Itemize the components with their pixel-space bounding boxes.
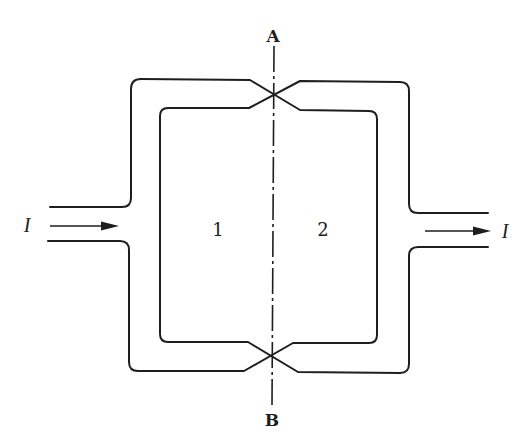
region-label-1: 1 [212,221,223,239]
output-current-arrow-icon [425,227,491,236]
diagram-canvas: A B 1 2 I I [0,0,532,448]
axis-label-a: A [266,28,279,45]
symmetry-axis [272,46,274,406]
input-current-label: I [24,215,31,235]
input-current-arrow-icon [50,222,119,231]
axis-label-b: B [265,412,279,429]
output-current-label: I [502,221,509,241]
diagram-drawing [0,0,532,448]
region-label-2: 2 [317,221,328,239]
